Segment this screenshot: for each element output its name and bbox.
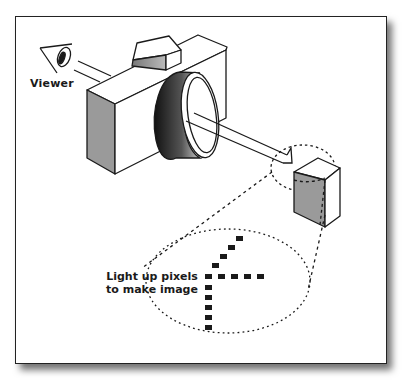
- camera-pixel-diagram: [0, 0, 406, 381]
- sight-line: [74, 61, 111, 82]
- pixel-caption: Light up pixels to make image: [97, 270, 207, 296]
- pixel-grid: [205, 236, 264, 330]
- pixel-cube: [294, 158, 340, 227]
- pixel-caption-line2: to make image: [97, 283, 207, 296]
- viewer-label: Viewer: [30, 77, 74, 90]
- pixel-caption-line1: Light up pixels: [97, 270, 207, 283]
- viewfinder: [132, 36, 181, 70]
- eye-icon: [40, 44, 73, 73]
